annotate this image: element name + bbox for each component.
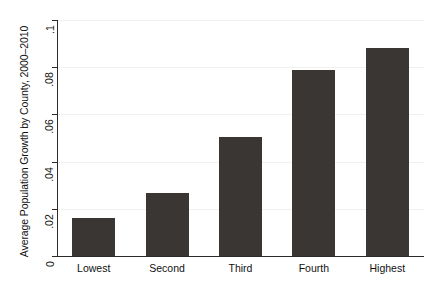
y-tick-label: .08 xyxy=(45,72,56,87)
x-tick-label: Lowest xyxy=(57,262,130,274)
gridline xyxy=(58,20,424,21)
bar xyxy=(366,48,409,256)
y-tick-label: .02 xyxy=(45,214,56,229)
x-tick-label: Third xyxy=(204,262,277,274)
bar xyxy=(146,193,189,256)
x-tick-label: Highest xyxy=(351,262,424,274)
x-tick-label: Second xyxy=(130,262,203,274)
x-axis-spine xyxy=(57,256,424,257)
y-tick-label: .04 xyxy=(45,167,56,182)
x-tick-label: Fourth xyxy=(277,262,350,274)
y-tick-mark xyxy=(52,162,57,163)
y-tick-label: 0 xyxy=(45,261,56,267)
y-tick-mark xyxy=(52,209,57,210)
bar xyxy=(72,218,115,256)
y-tick-label: .06 xyxy=(45,120,56,135)
y-tick-mark xyxy=(52,67,57,68)
y-tick-mark xyxy=(52,114,57,115)
y-tick-mark xyxy=(52,20,57,21)
y-tick-mark xyxy=(52,256,57,257)
bar-chart: Average Population Growth by County, 200… xyxy=(0,0,431,283)
y-tick-label: .1 xyxy=(45,25,56,34)
plot-area: 0.02.04.06.08.1 LowestSecondThirdFourthH… xyxy=(57,14,424,256)
bar xyxy=(219,137,262,256)
y-axis-spine xyxy=(57,20,58,256)
y-axis-title: Average Population Growth by County, 200… xyxy=(16,0,32,283)
bar xyxy=(292,70,335,256)
